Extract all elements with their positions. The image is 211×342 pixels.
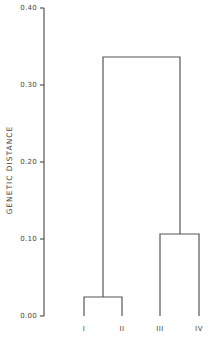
tick-label-030: 0.30: [5, 81, 37, 89]
tick-label-040: 0.40: [5, 4, 37, 12]
tick-label-000: 0.00: [5, 312, 37, 320]
branch-root: [103, 57, 180, 297]
y-axis-label: GENETIC DISTANCE: [5, 135, 14, 215]
leaf-label-IV: IV: [189, 325, 209, 333]
leaf-label-I: I: [74, 325, 94, 333]
leaf-label-II: II: [112, 325, 132, 333]
leaf-label-III: III: [150, 325, 170, 333]
branch-I-II: [84, 297, 122, 316]
tick-label-010: 0.10: [5, 235, 37, 243]
dendrogram-chart: [0, 0, 211, 342]
branch-III-IV: [160, 234, 199, 316]
